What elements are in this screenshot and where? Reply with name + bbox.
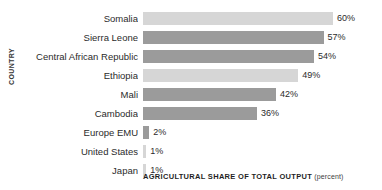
category-label: Somalia (0, 9, 138, 28)
chart-row: Sierra Leone57% (0, 28, 382, 47)
x-axis-title: AGRICULTURAL SHARE OF TOTAL OUTPUT (perc… (143, 172, 344, 181)
chart-row: Somalia60% (0, 9, 382, 28)
bar (143, 50, 314, 63)
bar-value-label: 57% (328, 30, 346, 45)
bar-track: 57% (143, 31, 382, 44)
chart-row: United States1% (0, 142, 382, 161)
bar (143, 126, 149, 139)
chart-plot-area: Somalia60%Sierra Leone57%Central African… (0, 9, 382, 180)
bar-value-label: 2% (153, 125, 166, 140)
bar-value-label: 36% (261, 106, 279, 121)
x-axis-title-text: AGRICULTURAL SHARE OF TOTAL OUTPUT (143, 172, 312, 181)
chart-row: Central African Republic54% (0, 47, 382, 66)
category-label: Europe EMU (0, 123, 138, 142)
bar-track: 49% (143, 69, 382, 82)
bar (143, 88, 276, 101)
chart-row: Europe EMU2% (0, 123, 382, 142)
bar-track: 60% (143, 12, 382, 25)
x-axis-title-unit: (percent) (312, 173, 343, 180)
bar-track: 54% (143, 50, 382, 63)
bar (143, 69, 298, 82)
bar-value-label: 49% (302, 68, 320, 83)
category-label: Mali (0, 85, 138, 104)
category-label: Sierra Leone (0, 28, 138, 47)
category-label: Cambodia (0, 104, 138, 123)
bar-value-label: 42% (280, 87, 298, 102)
chart-row: Ethiopia49% (0, 66, 382, 85)
bar-track: 36% (143, 107, 382, 120)
bar-track: 2% (143, 126, 382, 139)
bar-track: 1% (143, 145, 382, 158)
bar-value-label: 1% (150, 144, 163, 159)
bar-value-label: 54% (318, 49, 336, 64)
category-label: Ethiopia (0, 66, 138, 85)
category-label: Central African Republic (0, 47, 138, 66)
chart-row: Mali42% (0, 85, 382, 104)
bar (143, 31, 324, 44)
category-label: Japan (0, 161, 138, 180)
bar-chart: COUNTRY Somalia60%Sierra Leone57%Central… (0, 0, 382, 190)
bar (143, 145, 146, 158)
bar (143, 107, 257, 120)
bar (143, 12, 333, 25)
chart-row: Cambodia36% (0, 104, 382, 123)
bar-value-label: 60% (337, 11, 355, 26)
bar-track: 42% (143, 88, 382, 101)
category-label: United States (0, 142, 138, 161)
